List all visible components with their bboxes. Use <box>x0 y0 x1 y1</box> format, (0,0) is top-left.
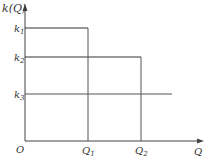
q1-label: Q1 <box>82 145 95 158</box>
step-function-diagram: k(Q) k1 k2 k3 O Q1 Q2 Q <box>0 0 207 158</box>
y-axis-label: k(Q) <box>2 2 26 15</box>
q2-label: Q2 <box>135 145 148 158</box>
k1-label: k1 <box>14 23 25 36</box>
x-axis-arrow-icon <box>197 139 204 144</box>
x-axis-label: Q <box>194 146 202 157</box>
k3-label: k3 <box>14 89 25 102</box>
k2-label: k2 <box>14 52 25 65</box>
origin-label: O <box>16 144 24 155</box>
